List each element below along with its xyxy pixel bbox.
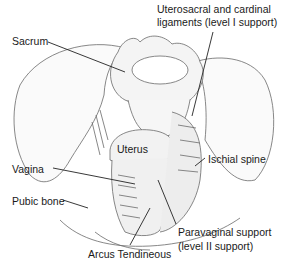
pelvic-support-diagram: Uterosacral and cardinal ligaments (leve… bbox=[0, 0, 286, 272]
leader-pubic-bone bbox=[63, 200, 88, 208]
label-ischial-spine: Ischial spine bbox=[208, 153, 266, 165]
label-pubic-bone: Pubic bone bbox=[12, 195, 65, 207]
label-uterosacral-line2: ligaments (level I support) bbox=[157, 16, 277, 28]
label-paravaginal-line1: Paravaginal support bbox=[178, 226, 271, 238]
label-uterus: Uterus bbox=[117, 143, 148, 155]
label-arcus-tendineous: Arcus Tendineous bbox=[88, 248, 171, 260]
label-uterosacral-line1: Uterosacral and cardinal bbox=[157, 3, 271, 15]
label-paravaginal-line2: (level II support) bbox=[178, 240, 253, 252]
label-sacrum: Sacrum bbox=[12, 35, 48, 47]
label-vagina: Vagina bbox=[12, 163, 44, 175]
